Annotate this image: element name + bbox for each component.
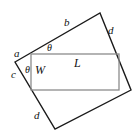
side-label-a: a [14, 48, 20, 59]
geometry-figure: a b c d d L W θ θ [0, 0, 140, 139]
dimension-label-width: W [35, 64, 45, 76]
side-label-c: c [11, 69, 16, 80]
angle-label-theta-left: θ [25, 65, 30, 75]
dimension-label-length: L [74, 57, 81, 69]
figure-canvas [0, 0, 140, 139]
side-label-d-bottom: d [34, 110, 40, 121]
side-label-b: b [64, 17, 70, 28]
angle-label-theta-top: θ [47, 43, 52, 53]
side-label-d-top: d [108, 25, 114, 36]
